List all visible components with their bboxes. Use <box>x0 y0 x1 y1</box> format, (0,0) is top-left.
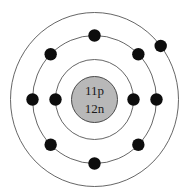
middle-electron-lower-left <box>44 139 56 151</box>
inner-electron-left <box>49 93 61 105</box>
inner-electron-right <box>127 93 139 105</box>
neutron-count-label: 12n <box>85 101 105 116</box>
middle-electron-upper-left <box>44 48 56 60</box>
atom-diagram-canvas: 11p12n <box>0 0 186 194</box>
atom-diagram: 11p12n <box>0 0 186 194</box>
middle-electron-left <box>26 93 38 105</box>
proton-count-label: 11p <box>85 83 104 98</box>
outer-electron-upper-right <box>154 40 166 52</box>
middle-electron-upper-right <box>132 48 144 60</box>
middle-electron-bottom <box>88 157 100 169</box>
middle-electron-lower-right <box>132 139 144 151</box>
middle-electron-right <box>150 93 162 105</box>
middle-electron-top <box>88 29 100 41</box>
